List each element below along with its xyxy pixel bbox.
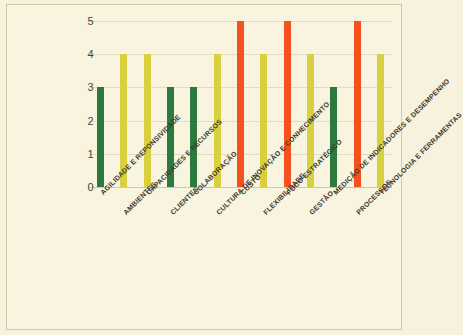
bar-slot [276, 21, 299, 187]
bar [190, 87, 197, 187]
bar [284, 21, 291, 187]
bar-slot [229, 21, 252, 187]
y-axis-tick-label: 1 [64, 148, 94, 160]
chart-frame: 012345 AGILIDADE E REPONSIVIDADEAMBIENTE… [6, 4, 402, 330]
y-axis-tick-label: 2 [64, 115, 94, 127]
y-axis-tick-label: 4 [64, 48, 94, 60]
bar [144, 54, 151, 187]
bar [237, 21, 244, 187]
x-axis-labels: AGILIDADE E REPONSIVIDADEAMBIENTESCAPACI… [89, 189, 392, 329]
y-axis-tick-label: 3 [64, 81, 94, 93]
bar-slot [182, 21, 205, 187]
y-axis-tick-label: 5 [64, 15, 94, 27]
bar-slot [369, 21, 392, 187]
bar [97, 87, 104, 187]
x-axis-tick-label: GESTÃO [308, 189, 335, 216]
bar [377, 54, 384, 187]
bar [330, 87, 337, 187]
bar-slot [136, 21, 159, 187]
bar-slot [89, 21, 112, 187]
